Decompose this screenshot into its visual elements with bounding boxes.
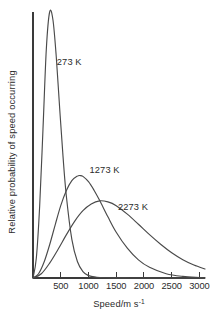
series-annotations: 273 K1273 K2273 K	[57, 57, 149, 212]
series-label-1273-k: 1273 K	[90, 165, 121, 175]
x-axis-tick-label: 2500	[162, 281, 182, 291]
x-axis-tick-label: 500	[53, 281, 68, 291]
x-axis-tick-label: 2000	[134, 281, 154, 291]
curve-1273-k	[33, 176, 205, 278]
x-axis-tick-labels: 50010001500200025003000	[53, 281, 209, 291]
x-axis-tick-label: 1000	[78, 281, 98, 291]
x-axis-ticks	[61, 272, 200, 278]
distribution-curves	[33, 10, 205, 278]
curve-273-k	[33, 10, 205, 278]
chart-svg: 50010001500200025003000 273 K1273 K2273 …	[0, 0, 212, 315]
series-label-273-k: 273 K	[57, 57, 82, 67]
series-label-2273-k: 2273 K	[118, 202, 149, 212]
x-axis-tick-label: 1500	[106, 281, 126, 291]
x-axis-title-text: Speed/m s	[93, 299, 139, 309]
y-axis-title: Relative probability of speed occurring	[7, 70, 17, 233]
x-axis-tick-label: 3000	[189, 281, 209, 291]
x-axis-title-superscript: -1	[139, 298, 145, 305]
x-axis-title: Speed/m s-1	[93, 298, 145, 310]
maxwell-boltzmann-speed-distribution-chart: 50010001500200025003000 273 K1273 K2273 …	[0, 0, 212, 315]
